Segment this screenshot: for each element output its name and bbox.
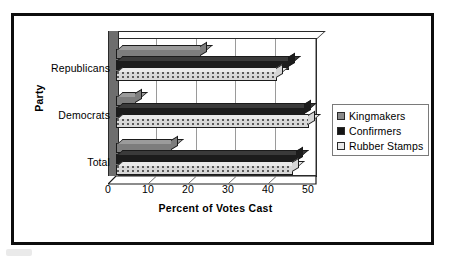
scan-artifact (6, 249, 32, 256)
x-tick-40: 40 (255, 183, 281, 195)
x-tick-10: 10 (135, 183, 161, 195)
x-axis-title: Percent of Votes Cast (108, 202, 323, 214)
legend-label-confirmers: Confirmers (349, 125, 401, 137)
x-tick-30: 30 (215, 183, 241, 195)
bar-republicans-rubber-stamps (116, 71, 277, 81)
bar-total-rubber-stamps (116, 165, 293, 175)
legend-label-kingmakers: Kingmakers (349, 110, 405, 122)
legend-swatch-confirmers (337, 127, 345, 135)
bar-chart: Party Republicans Democrats Total (0, 0, 450, 260)
x-tick-50: 50 (295, 183, 321, 195)
legend-label-rubber-stamps: Rubber Stamps (349, 140, 423, 152)
bar-democrats-rubber-stamps (116, 118, 309, 128)
legend-swatch-kingmakers (337, 112, 345, 120)
chart-screenshot: Party Republicans Democrats Total (0, 0, 450, 260)
legend-item-kingmakers: Kingmakers (337, 108, 424, 123)
legend-item-confirmers: Confirmers (337, 123, 424, 138)
legend-swatch-rubber-stamps (337, 142, 345, 150)
x-tick-0: 0 (95, 183, 121, 195)
x-axis-labels: 0 10 20 30 40 50 (0, 183, 450, 199)
legend-item-rubber-stamps: Rubber Stamps (337, 138, 424, 153)
chart-legend: Kingmakers Confirmers Rubber Stamps (332, 104, 429, 156)
x-tick-20: 20 (175, 183, 201, 195)
